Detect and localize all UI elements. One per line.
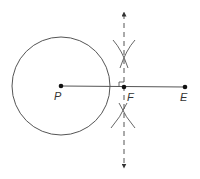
point-p: [59, 84, 64, 89]
label-e: E: [180, 91, 188, 103]
point-f: [122, 85, 127, 90]
lower-construction-arcs: [111, 103, 135, 128]
label-p: P: [54, 90, 62, 102]
label-f: F: [127, 91, 135, 103]
lower-arc-left: [111, 103, 127, 128]
point-e: [183, 85, 188, 90]
geometry-diagram: P F E: [0, 0, 200, 179]
lower-arc-right: [119, 103, 135, 128]
